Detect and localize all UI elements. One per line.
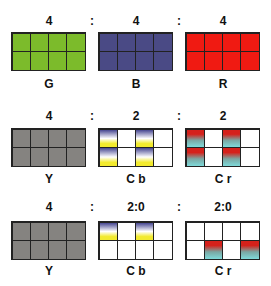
pixel-cell bbox=[12, 33, 31, 53]
pixel-cell bbox=[240, 129, 259, 149]
ratio-value: 4 bbox=[11, 200, 87, 214]
ratio-value: 2 bbox=[185, 109, 261, 123]
pixel-cell bbox=[135, 33, 154, 53]
ratio-separator: : bbox=[174, 200, 184, 214]
channel-label: Y bbox=[11, 172, 87, 186]
pixel-cell bbox=[48, 222, 67, 242]
pixel-cell bbox=[99, 33, 118, 53]
pixel-cell bbox=[117, 33, 136, 53]
pixel-cell bbox=[30, 51, 49, 71]
channel-label: C b bbox=[98, 172, 174, 186]
pixel-cell bbox=[66, 222, 85, 242]
pixel-cell bbox=[66, 33, 85, 53]
pixel-grid-cb bbox=[98, 221, 173, 260]
pixel-cell bbox=[30, 222, 49, 242]
ratio-separator: : bbox=[87, 109, 97, 123]
pixel-cell bbox=[204, 240, 223, 260]
pixel-cell bbox=[222, 240, 241, 260]
pixel-cell bbox=[12, 51, 31, 71]
pixel-cell bbox=[204, 51, 223, 71]
pixel-cell bbox=[204, 222, 223, 242]
channel-label: C b bbox=[98, 264, 174, 278]
pixel-cell bbox=[48, 147, 67, 167]
pixel-cell bbox=[186, 147, 205, 167]
pixel-cell bbox=[153, 240, 172, 260]
channel-label: B bbox=[98, 77, 174, 91]
pixel-cell bbox=[48, 129, 67, 149]
ratio-value: 4 bbox=[185, 14, 261, 28]
pixel-cell bbox=[186, 240, 205, 260]
channel-label: C r bbox=[185, 264, 261, 278]
channel-label: R bbox=[185, 77, 261, 91]
pixel-cell bbox=[117, 129, 136, 149]
pixel-cell bbox=[66, 240, 85, 260]
channel-label: Y bbox=[11, 264, 87, 278]
pixel-grid-b bbox=[98, 32, 173, 71]
pixel-cell bbox=[222, 51, 241, 71]
pixel-cell bbox=[66, 129, 85, 149]
pixel-cell bbox=[99, 147, 118, 167]
pixel-cell bbox=[153, 51, 172, 71]
pixel-cell bbox=[48, 33, 67, 53]
ratio-separator: : bbox=[174, 14, 184, 28]
pixel-cell bbox=[12, 147, 31, 167]
pixel-cell bbox=[30, 240, 49, 260]
pixel-grid-cr bbox=[185, 221, 260, 260]
pixel-cell bbox=[186, 33, 205, 53]
pixel-cell bbox=[204, 147, 223, 167]
pixel-cell bbox=[135, 147, 154, 167]
pixel-grid-g bbox=[11, 32, 86, 71]
pixel-cell bbox=[204, 129, 223, 149]
pixel-cell bbox=[66, 51, 85, 71]
pixel-cell bbox=[222, 222, 241, 242]
pixel-cell bbox=[99, 222, 118, 242]
ratio-separator: : bbox=[174, 109, 184, 123]
pixel-cell bbox=[186, 129, 205, 149]
pixel-cell bbox=[12, 222, 31, 242]
pixel-cell bbox=[30, 33, 49, 53]
pixel-cell bbox=[153, 147, 172, 167]
ratio-value: 2:0 bbox=[185, 200, 261, 214]
pixel-cell bbox=[135, 129, 154, 149]
pixel-cell bbox=[48, 51, 67, 71]
channel-label: G bbox=[11, 77, 87, 91]
pixel-cell bbox=[99, 51, 118, 71]
pixel-cell bbox=[30, 129, 49, 149]
ratio-value: 4 bbox=[11, 14, 87, 28]
ratio-value: 2:0 bbox=[98, 200, 174, 214]
pixel-cell bbox=[240, 147, 259, 167]
pixel-cell bbox=[186, 51, 205, 71]
ratio-value: 4 bbox=[11, 109, 87, 123]
pixel-grid-cb bbox=[98, 128, 173, 167]
pixel-cell bbox=[240, 33, 259, 53]
channel-label: C r bbox=[185, 172, 261, 186]
pixel-cell bbox=[153, 222, 172, 242]
pixel-cell bbox=[99, 129, 118, 149]
pixel-grid-y bbox=[11, 128, 86, 167]
pixel-cell bbox=[186, 222, 205, 242]
pixel-cell bbox=[12, 240, 31, 260]
pixel-grid-r bbox=[185, 32, 260, 71]
pixel-cell bbox=[48, 240, 67, 260]
pixel-cell bbox=[240, 51, 259, 71]
pixel-cell bbox=[117, 51, 136, 71]
pixel-cell bbox=[117, 222, 136, 242]
pixel-cell bbox=[135, 240, 154, 260]
pixel-grid-cr bbox=[185, 128, 260, 167]
pixel-cell bbox=[66, 147, 85, 167]
pixel-cell bbox=[204, 33, 223, 53]
pixel-cell bbox=[117, 147, 136, 167]
pixel-cell bbox=[135, 51, 154, 71]
pixel-cell bbox=[240, 222, 259, 242]
pixel-cell bbox=[30, 147, 49, 167]
pixel-cell bbox=[135, 222, 154, 242]
ratio-value: 4 bbox=[98, 14, 174, 28]
pixel-cell bbox=[222, 129, 241, 149]
pixel-cell bbox=[117, 240, 136, 260]
pixel-cell bbox=[153, 129, 172, 149]
pixel-cell bbox=[240, 240, 259, 260]
ratio-value: 2 bbox=[98, 109, 174, 123]
ratio-separator: : bbox=[87, 14, 97, 28]
pixel-cell bbox=[222, 33, 241, 53]
pixel-cell bbox=[222, 147, 241, 167]
